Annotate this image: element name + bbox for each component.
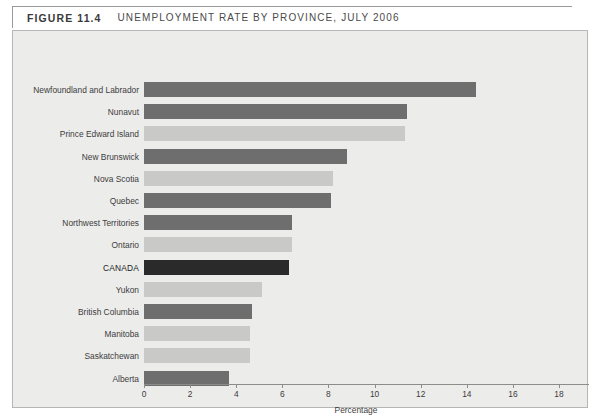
category-label: New Brunswick xyxy=(82,152,139,162)
category-label: Ontario xyxy=(112,240,139,250)
x-axis-tick-label: 14 xyxy=(462,389,471,399)
x-axis-tick xyxy=(328,384,329,388)
x-axis-tick xyxy=(513,384,514,388)
category-label: Nunavut xyxy=(108,107,139,117)
x-axis-tick-label: 6 xyxy=(280,389,285,399)
x-axis-tick xyxy=(190,384,191,388)
chart-row: Yukon xyxy=(144,279,589,301)
chart-row: CANADA xyxy=(144,257,589,279)
chart-bar xyxy=(144,260,289,275)
chart-row: New Brunswick xyxy=(144,146,589,168)
chart-bar xyxy=(144,237,292,252)
category-label: Prince Edward Island xyxy=(60,129,139,139)
chart-row: Prince Edward Island xyxy=(144,123,589,145)
x-axis-tick xyxy=(375,384,376,388)
category-label: Newfoundland and Labrador xyxy=(33,85,139,95)
x-axis-tick-label: 4 xyxy=(234,389,239,399)
figure-container: FIGURE 11.4 UNEMPLOYMENT RATE BY PROVINC… xyxy=(0,0,600,418)
x-axis-tick xyxy=(282,384,283,388)
x-axis-tick xyxy=(559,384,560,388)
x-axis-title-wrap: Percentage xyxy=(13,405,587,415)
chart-row: Quebec xyxy=(144,190,589,212)
chart-bar xyxy=(144,82,476,97)
chart-row: Northwest Territories xyxy=(144,212,589,234)
category-label: Nova Scotia xyxy=(94,174,139,184)
x-axis-tick-label: 12 xyxy=(416,389,425,399)
chart-row: Alberta xyxy=(144,368,589,390)
chart-row: Newfoundland and Labrador xyxy=(144,79,589,101)
chart-bar xyxy=(144,304,252,319)
chart-bar xyxy=(144,126,405,141)
chart-row: British Columbia xyxy=(144,301,589,323)
chart-row: Saskatchewan xyxy=(144,345,589,367)
category-label: British Columbia xyxy=(78,307,139,317)
chart-bar xyxy=(144,104,407,119)
category-label: Northwest Territories xyxy=(62,218,139,228)
x-axis-tick xyxy=(236,384,237,388)
chart-plot-frame: Newfoundland and LabradorNunavutPrince E… xyxy=(12,30,588,408)
x-axis-tick-label: 16 xyxy=(508,389,517,399)
category-label: CANADA xyxy=(103,263,139,273)
chart-bar xyxy=(144,326,250,341)
figure-number: FIGURE 11.4 xyxy=(27,12,102,24)
chart-bar xyxy=(144,215,292,230)
x-axis-tick xyxy=(144,384,145,388)
x-axis-tick-label: 2 xyxy=(188,389,193,399)
chart-bar xyxy=(144,282,262,297)
category-label: Saskatchewan xyxy=(85,351,139,361)
x-axis-tick xyxy=(421,384,422,388)
chart-bar xyxy=(144,193,331,208)
x-axis-title: Percentage xyxy=(335,405,378,415)
x-axis-line xyxy=(144,384,589,385)
x-axis-tick xyxy=(467,384,468,388)
category-label: Quebec xyxy=(110,196,139,206)
x-axis-tick-label: 8 xyxy=(326,389,331,399)
chart-bar xyxy=(144,348,250,363)
chart-bar xyxy=(144,149,347,164)
category-label: Yukon xyxy=(116,285,139,295)
x-axis-tick-label: 18 xyxy=(554,389,563,399)
chart-row: Nunavut xyxy=(144,101,589,123)
chart-bar xyxy=(144,171,333,186)
figure-header: FIGURE 11.4 UNEMPLOYMENT RATE BY PROVINC… xyxy=(12,6,572,28)
chart-row: Ontario xyxy=(144,234,589,256)
x-axis-tick-label: 0 xyxy=(142,389,147,399)
category-label: Manitoba xyxy=(105,329,139,339)
x-axis-tick-label: 10 xyxy=(370,389,379,399)
category-label: Alberta xyxy=(112,374,139,384)
chart-row: Manitoba xyxy=(144,323,589,345)
chart-plot-area: Newfoundland and LabradorNunavutPrince E… xyxy=(144,79,589,384)
chart-row: Nova Scotia xyxy=(144,168,589,190)
figure-caption: UNEMPLOYMENT RATE BY PROVINCE, JULY 2006 xyxy=(118,12,400,23)
